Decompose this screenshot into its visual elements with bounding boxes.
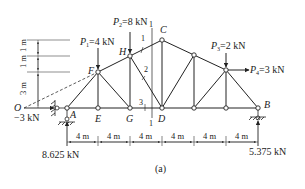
load-P4-label: P4=3 kN bbox=[249, 64, 284, 76]
node-D bbox=[160, 106, 164, 110]
node-E bbox=[96, 106, 100, 110]
label-B: B bbox=[264, 99, 270, 110]
node-bottom-6 bbox=[224, 106, 228, 110]
label-C: C bbox=[160, 24, 167, 35]
label-G: G bbox=[126, 113, 133, 124]
node-top-right-2 bbox=[224, 68, 228, 72]
load-P1-label: P1=4 kN bbox=[79, 36, 114, 48]
node-H bbox=[128, 54, 132, 58]
support-B bbox=[249, 110, 266, 120]
label-A: A bbox=[69, 109, 77, 120]
load-P3-label: P3=2 kN bbox=[210, 40, 245, 52]
horizontal-dimension bbox=[67, 136, 258, 146]
dashed-extension-line bbox=[24, 72, 98, 108]
node-bottom-5 bbox=[192, 106, 196, 110]
dim-4m-3: 4 m bbox=[139, 131, 152, 141]
member-label-1: 1 bbox=[141, 34, 145, 43]
section-label-bottom: 1 bbox=[149, 119, 153, 128]
label-E: E bbox=[94, 113, 101, 124]
load-P2-label: P2=8 kN bbox=[112, 16, 147, 28]
node-F bbox=[96, 70, 100, 74]
node-top-right-1 bbox=[192, 53, 196, 57]
label-D: D bbox=[157, 113, 166, 124]
vertical-dimension bbox=[27, 40, 70, 108]
reaction-A-horizontal-label: −3 kN bbox=[14, 112, 39, 123]
member-label-2: 2 bbox=[144, 65, 148, 74]
node-A bbox=[65, 106, 69, 110]
dim-4m-4: 4 m bbox=[171, 131, 184, 141]
figure-caption: (a) bbox=[155, 163, 166, 175]
section-label-top: 1 bbox=[149, 20, 153, 29]
dim-4m-6: 4 m bbox=[235, 131, 248, 141]
node-G bbox=[128, 106, 132, 110]
dim-4m-2: 4 m bbox=[107, 131, 120, 141]
dim-4m-5: 4 m bbox=[203, 131, 216, 141]
dim-4m-1: 4 m bbox=[76, 131, 89, 141]
member-label-3: 3 bbox=[139, 98, 143, 107]
reaction-B-vertical-label: 5.375 kN bbox=[249, 146, 286, 157]
truss-diagram: 1 m 1 m 3 m 1 1 1 2 3 bbox=[0, 0, 305, 189]
dim-1m-mid: 1 m bbox=[18, 55, 28, 68]
label-H: H bbox=[118, 46, 127, 57]
node-B bbox=[256, 106, 260, 110]
dim-1m-top: 1 m bbox=[18, 39, 28, 52]
dim-3m: 3 m bbox=[18, 82, 28, 95]
reaction-A-vertical-label: 8.625 kN bbox=[42, 149, 79, 160]
node-C bbox=[160, 38, 164, 42]
label-F: F bbox=[87, 65, 95, 76]
